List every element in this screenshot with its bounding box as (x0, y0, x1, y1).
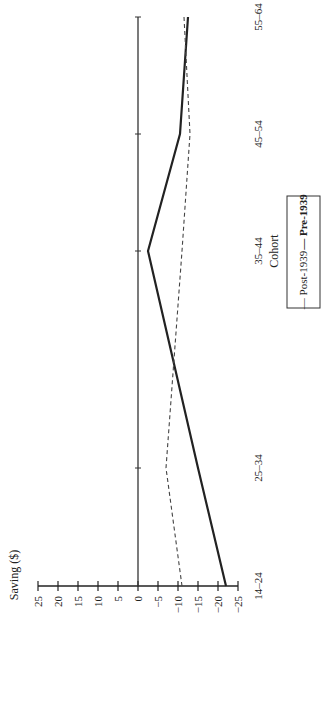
category-label: 35–44 (252, 237, 264, 265)
saving-by-cohort-chart: 2520151050−5−10−15−20−25 14–2425–3435–44… (0, 0, 323, 704)
category-label: 14–24 (252, 572, 264, 600)
value-axis-tick-label: 25 (32, 596, 44, 608)
series-line-pre-1939 (166, 17, 190, 586)
category-axis-labels: 14–2425–3435–4445–5455–64 (252, 3, 264, 600)
value-axis-tick-label: 5 (112, 596, 124, 602)
legend-entry-post-1939: — Post-1939 (297, 250, 309, 310)
value-axis-tick-label: −5 (152, 596, 164, 608)
value-axis-tick-label: −15 (192, 596, 204, 614)
category-label: 45–54 (252, 120, 264, 148)
axis-titles: Saving ($)Cohort (7, 234, 281, 600)
zero-line (135, 17, 141, 586)
category-label: 55–64 (252, 3, 264, 31)
value-axis-tick-label: −25 (232, 596, 244, 614)
category-label: 25–34 (252, 454, 264, 482)
series-lines (148, 17, 226, 586)
value-axis-tick-label: 15 (72, 596, 84, 608)
legend-entry-pre-1939: — Pre-1939 (297, 194, 309, 251)
value-axis-tick-label: 10 (92, 596, 104, 608)
value-axis-tick-label: −20 (212, 596, 224, 614)
value-axis-tick-label: 0 (132, 596, 144, 602)
value-axis-tick-label: −10 (172, 596, 184, 614)
legend: — Post-1939— Pre-1939 (287, 194, 320, 311)
x-axis-title: Cohort (267, 234, 281, 268)
series-line-post-1939 (148, 17, 226, 586)
y-axis-title: Saving ($) (7, 550, 21, 600)
value-axis-tick-label: 20 (52, 596, 64, 608)
